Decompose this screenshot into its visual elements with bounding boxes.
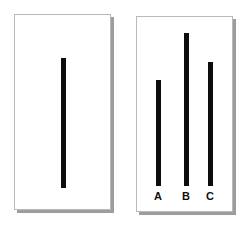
line-label-a: A bbox=[151, 190, 165, 202]
comparison-line-b bbox=[184, 33, 189, 186]
comparison-line-a bbox=[156, 80, 161, 186]
line-label-c: C bbox=[203, 190, 217, 202]
reference-line bbox=[61, 58, 66, 188]
asch-line-stimulus: A B C bbox=[0, 0, 249, 227]
comparison-card: A B C bbox=[136, 16, 233, 212]
reference-card bbox=[14, 14, 111, 210]
comparison-line-c bbox=[208, 62, 213, 186]
line-label-b: B bbox=[179, 190, 193, 202]
